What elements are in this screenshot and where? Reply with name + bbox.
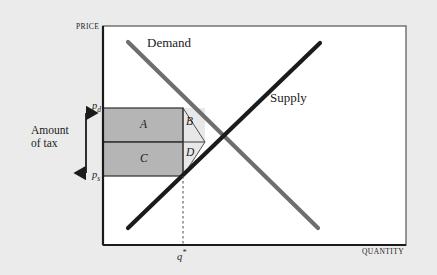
tax-incidence-figure: PRICE QUANTITY Demand Supply A B C D pd … [0, 0, 437, 275]
supply-price-subscript: s [97, 174, 100, 183]
region-c-label: C [140, 152, 148, 165]
supply-curve-label: Supply [270, 91, 307, 106]
demand-price-label: pd [92, 100, 101, 114]
demand-price-subscript: d [97, 105, 101, 114]
tax-amount-line1: Amount [31, 124, 69, 137]
tax-amount-label: Amount of tax [31, 124, 69, 150]
x-axis-label: QUANTITY [362, 248, 404, 256]
demand-curve-label: Demand [147, 36, 191, 51]
region-b-label: B [186, 115, 193, 128]
tax-amount-line2: of tax [31, 137, 69, 150]
quantity-superscript: * [182, 248, 186, 257]
region-a-label: A [140, 118, 147, 131]
y-axis-label: PRICE [76, 23, 99, 31]
quantity-marker-label: q* [177, 249, 186, 262]
region-d-label: D [186, 146, 194, 159]
supply-price-label: ps [92, 169, 100, 183]
